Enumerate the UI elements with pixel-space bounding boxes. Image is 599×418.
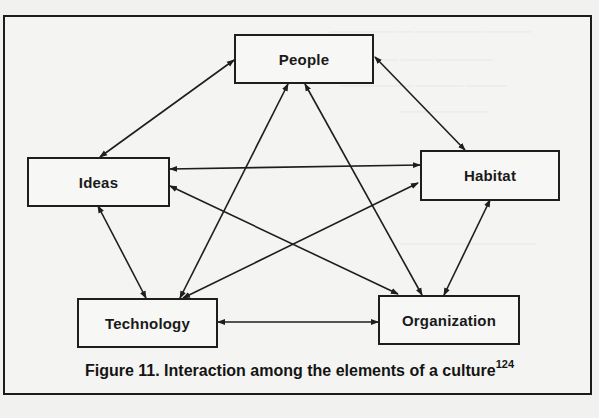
arrow-people-technology [180,84,288,298]
figure-caption-text: Figure 11. Interaction among the element… [85,362,496,379]
node-label-habitat: Habitat [464,167,516,184]
arrow-ideas-technology [98,206,146,298]
node-organization: Organization [378,295,520,345]
arrow-habitat-technology [183,183,418,298]
figure-caption-reference: 124 [496,358,514,370]
node-technology: Technology [77,298,218,348]
node-habitat: Habitat [420,150,560,201]
arrow-habitat-organization [444,200,490,295]
arrow-people-habitat [375,57,465,150]
node-ideas: Ideas [27,157,170,207]
arrow-ideas-habitat [170,165,420,169]
arrow-ideas-people [100,60,234,157]
figure-caption: Figure 11. Interaction among the element… [0,362,599,380]
node-label-ideas: Ideas [79,174,118,191]
node-label-technology: Technology [105,315,190,332]
node-people: People [234,34,374,84]
node-label-people: People [279,51,329,68]
arrow-ideas-organization [170,186,398,294]
node-label-organization: Organization [402,312,496,329]
